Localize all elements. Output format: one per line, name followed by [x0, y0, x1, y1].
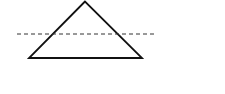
- diagram-canvas: [0, 0, 225, 94]
- triangle-shape: [29, 2, 142, 59]
